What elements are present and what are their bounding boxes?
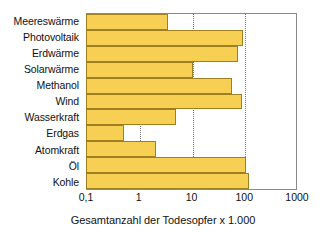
y-axis-label: Erdgas	[0, 126, 83, 142]
bar	[86, 14, 168, 30]
bar	[86, 125, 124, 141]
bar	[86, 157, 246, 173]
y-axis-label: Wasserkraft	[0, 110, 83, 126]
y-axis-label: Wind	[0, 93, 83, 109]
bar-row	[87, 78, 296, 94]
bar	[86, 109, 176, 125]
y-axis-label: Atomkraft	[0, 142, 83, 158]
bar-row	[87, 62, 296, 78]
bar-row	[87, 46, 296, 62]
bar-row	[87, 125, 296, 141]
y-axis-label: Solarwärme	[0, 61, 83, 77]
x-axis-tick-label: 100	[235, 192, 253, 203]
x-axis-tick-label: 1000	[285, 192, 308, 203]
bar-row	[87, 157, 296, 173]
x-axis-tick-label: 10	[186, 192, 198, 203]
x-axis-tick-label: 0,1	[79, 192, 94, 203]
y-axis-label: Meereswärme	[0, 13, 83, 29]
bar-row	[87, 94, 296, 110]
y-axis-category-labels: Meereswärme Photovoltaik Erdwärme Solarw…	[0, 13, 83, 190]
bar	[86, 78, 232, 94]
bar	[86, 62, 193, 78]
y-axis-label: Photovoltaik	[0, 29, 83, 45]
bar-row	[87, 30, 296, 46]
y-axis-label: Öl	[0, 158, 83, 174]
bar	[86, 30, 243, 46]
x-axis-tick-labels: 0,11101001000	[86, 192, 297, 206]
y-axis-label: Methanol	[0, 77, 83, 93]
x-axis-title: Gesamtanzahl der Todesopfer x 1.000	[0, 215, 326, 226]
x-axis-tick-label: 1	[136, 192, 142, 203]
bar-row	[87, 109, 296, 125]
bar	[86, 46, 238, 62]
bar-series	[87, 14, 296, 189]
bar	[86, 94, 242, 110]
bar	[86, 173, 249, 189]
bar-row	[87, 14, 296, 30]
bar	[86, 141, 156, 157]
bar-chart: Meereswärme Photovoltaik Erdwärme Solarw…	[0, 0, 326, 240]
y-axis-label: Kohle	[0, 174, 83, 190]
plot-area	[86, 13, 297, 190]
y-axis-label: Erdwärme	[0, 45, 83, 61]
bar-row	[87, 173, 296, 189]
bar-row	[87, 141, 296, 157]
